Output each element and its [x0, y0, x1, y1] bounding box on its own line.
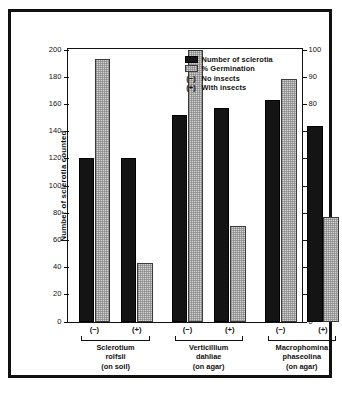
group-name-line: rolfsii	[96, 352, 134, 361]
x-tick-label-treatment: (+)	[132, 325, 142, 334]
y-tick-right	[302, 240, 307, 241]
x-axis-group-label: Sclerotiumrolfsii(on soil)	[96, 343, 134, 371]
group-name-line: (on agar)	[189, 362, 228, 371]
group-name-line: (on agar)	[275, 362, 328, 371]
group-name-line: Macrophomina	[275, 343, 328, 352]
x-axis-group-label: Macrophominaphaseolina(on agar)	[275, 343, 328, 371]
y-tick-label-left: 80	[53, 209, 62, 217]
y-tick-right	[302, 267, 307, 268]
y-tick-label-left: 180	[49, 73, 62, 81]
y-tick-label-right: 100	[309, 46, 322, 54]
group-bracket	[175, 336, 243, 341]
bar-percent-germination	[230, 226, 246, 321]
y-tick-label-left: 20	[53, 291, 62, 299]
legend-item: (+)With insects	[185, 83, 273, 93]
legend-symbol: (+)	[185, 83, 198, 93]
figure-container: Number of sclerotia counted Percent germ…	[0, 0, 342, 397]
group-bracket	[81, 336, 149, 341]
y-tick-right	[302, 186, 307, 187]
y-tick-right	[302, 77, 307, 78]
y-tick-label-right: 80	[309, 100, 318, 108]
legend-label: Number of sclerotia	[202, 55, 273, 65]
y-tick-label-left: 160	[49, 100, 62, 108]
chart-legend: Number of sclerotia% Germination(−)No in…	[185, 55, 273, 93]
group-name-line: phaseolina	[275, 352, 328, 361]
legend-symbol: (−)	[185, 74, 198, 84]
legend-item: (−)No insects	[185, 74, 273, 84]
y-tick-label-left: 120	[49, 155, 62, 163]
y-tick-right	[302, 158, 307, 159]
x-tick-label-treatment: (+)	[225, 325, 235, 334]
group-bracket	[268, 336, 336, 341]
y-tick-label-left: 60	[53, 236, 62, 244]
bar-number-of-sclerotia	[265, 100, 281, 322]
bar-percent-germination	[137, 263, 153, 321]
y-tick-label-left: 0	[57, 318, 61, 326]
x-tick-label-treatment: (−)	[90, 325, 100, 334]
bar-number-of-sclerotia	[172, 115, 188, 322]
plot-area: Number of sclerotia counted Percent germ…	[69, 50, 302, 322]
y-tick-label-left: 40	[53, 263, 62, 271]
figure-outer-frame: Number of sclerotia counted Percent germ…	[8, 9, 332, 378]
legend-item: % Germination	[185, 64, 273, 74]
group-name-line: Sclerotium	[96, 343, 134, 352]
legend-swatch-black-icon	[185, 56, 198, 63]
legend-label: With insects	[202, 83, 247, 93]
bar-number-of-sclerotia	[121, 158, 137, 321]
x-tick-label-treatment: (−)	[276, 325, 286, 334]
x-tick-label-treatment: (−)	[183, 325, 193, 334]
group-name-line: dahliae	[189, 352, 228, 361]
bar-number-of-sclerotia	[307, 126, 323, 322]
bar-percent-germination	[323, 217, 339, 322]
y-tick-right	[302, 294, 307, 295]
y-tick-label-left: 200	[49, 46, 62, 54]
y-tick-label-left: 100	[49, 182, 62, 190]
legend-swatch-gray-icon	[185, 65, 198, 72]
legend-label: No insects	[202, 74, 240, 84]
y-tick-right	[302, 213, 307, 214]
y-tick-label-left: 140	[49, 127, 62, 135]
bar-percent-germination	[281, 79, 297, 321]
y-tick-right	[302, 50, 307, 51]
y-tick-right	[302, 131, 307, 132]
group-name-line: Verticillium	[189, 343, 228, 352]
x-axis-labels: (−)(+)Sclerotiumrolfsii(on soil)(−)(+)Ve…	[69, 323, 302, 389]
x-axis-group-label: Verticilliumdahliae(on agar)	[189, 343, 228, 371]
bar-number-of-sclerotia	[79, 158, 95, 321]
y-tick-right	[302, 322, 307, 323]
x-tick-label-treatment: (+)	[318, 325, 328, 334]
legend-item: Number of sclerotia	[185, 55, 273, 65]
bar-number-of-sclerotia	[214, 108, 230, 322]
bar-percent-germination	[95, 59, 111, 321]
y-tick-label-right: 90	[309, 73, 318, 81]
legend-label: % Germination	[202, 64, 255, 74]
y-tick-right	[302, 104, 307, 105]
group-name-line: (on soil)	[96, 362, 134, 371]
